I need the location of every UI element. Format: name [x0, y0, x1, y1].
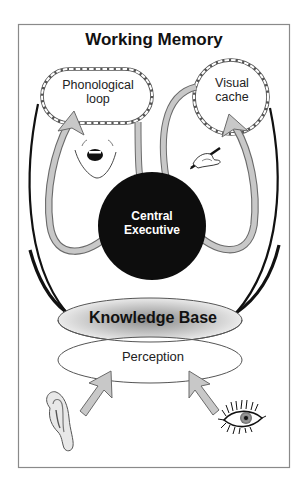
diagram-title: Working Memory: [18, 30, 290, 50]
visual-cache-line2: cache: [196, 90, 268, 104]
diagram-canvas: [0, 0, 304, 490]
phonological-loop-line1: Phonological: [46, 78, 150, 92]
band-ce-to-phonological-fill: [138, 122, 140, 178]
perception-label: Perception: [58, 350, 248, 365]
central-executive-label: Central Executive: [100, 210, 204, 238]
phonological-loop-line2: loop: [46, 92, 150, 106]
central-executive-line2: Executive: [100, 224, 204, 238]
central-executive-line1: Central: [100, 210, 204, 224]
knowledge-base-label: Knowledge Base: [58, 309, 248, 327]
phonological-loop-label: Phonological loop: [46, 78, 150, 107]
visual-cache-line1: Visual: [196, 76, 268, 90]
working-memory-diagram: Working Memory Phonological loop Visual …: [0, 0, 304, 490]
visual-cache-label: Visual cache: [196, 76, 268, 105]
